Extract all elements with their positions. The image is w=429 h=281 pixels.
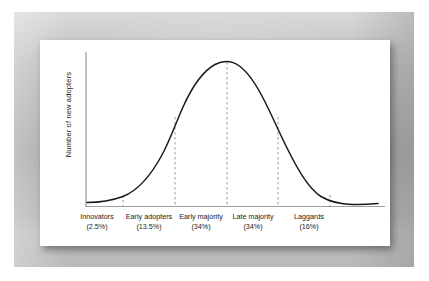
chart-plot-area: Number of new adopters Innovators (2.5%)… bbox=[40, 40, 390, 246]
segment-name-laggards: Laggards bbox=[294, 212, 324, 221]
segment-name-innovators: Innovators bbox=[80, 212, 114, 221]
chart-card: Number of new adopters Innovators (2.5%)… bbox=[40, 40, 390, 246]
segment-percent-laggards: (16%) bbox=[274, 222, 344, 232]
segment-name-late-majority: Late majority bbox=[232, 212, 273, 221]
bell-curve-path bbox=[87, 61, 378, 204]
adoption-curve-figure: Number of new adopters Innovators (2.5%)… bbox=[0, 0, 429, 281]
y-axis-label: Number of new adopters bbox=[64, 45, 73, 185]
segment-label-laggards: Laggards (16%) bbox=[274, 212, 344, 231]
segment-name-early-majority: Early majority bbox=[179, 212, 223, 221]
